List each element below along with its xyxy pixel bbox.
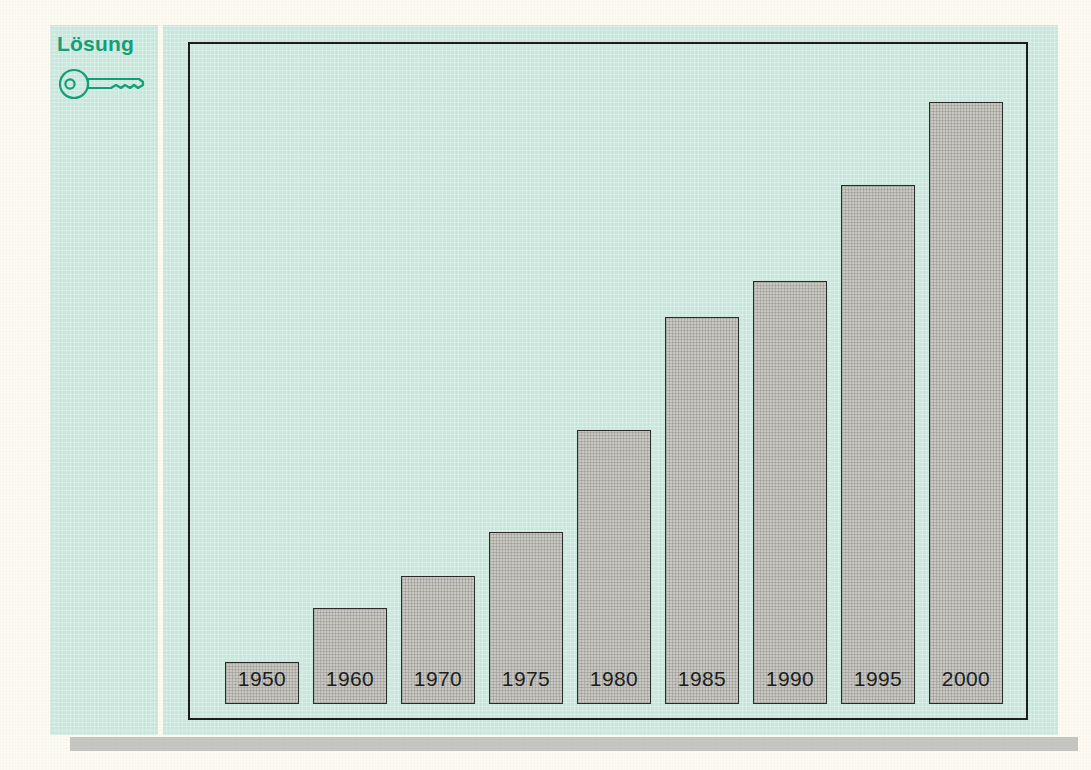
bar-label: 1970	[414, 668, 462, 703]
chart-frame: 1950 1960 1970 1975 1980 1985 1990 1995 …	[188, 42, 1028, 720]
bar-1975: 1975	[489, 532, 563, 704]
bar-1980: 1980	[577, 430, 651, 704]
bar-1950: 1950	[225, 662, 299, 704]
bar-label: 1950	[238, 668, 286, 703]
bar-label: 1960	[326, 668, 374, 703]
bar-2000: 2000	[929, 102, 1003, 704]
bar-label: 1995	[854, 668, 902, 703]
bar-label: 1975	[502, 668, 550, 703]
key-icon	[55, 64, 155, 104]
bar-1990: 1990	[753, 281, 827, 704]
solution-label: Lösung	[57, 32, 134, 56]
bar-label: 1980	[590, 668, 638, 703]
panel-drop-shadow	[70, 737, 1078, 751]
bar-label: 1990	[766, 668, 814, 703]
bar-1970: 1970	[401, 576, 475, 704]
bar-1995: 1995	[841, 185, 915, 704]
bar-label: 1985	[678, 668, 726, 703]
bar-1985: 1985	[665, 317, 739, 704]
column-divider	[158, 25, 163, 735]
bar-label: 2000	[942, 668, 990, 703]
bar-1960: 1960	[313, 608, 387, 704]
plot-area: 1950 1960 1970 1975 1980 1985 1990 1995 …	[225, 64, 1007, 704]
